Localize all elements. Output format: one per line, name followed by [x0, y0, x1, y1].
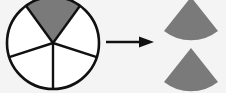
shaded-piece	[164, 48, 218, 91]
arrow-icon	[106, 37, 154, 48]
divided-circle	[7, 0, 99, 89]
shaded-piece	[164, 0, 218, 40]
fraction-diagram	[0, 0, 226, 93]
